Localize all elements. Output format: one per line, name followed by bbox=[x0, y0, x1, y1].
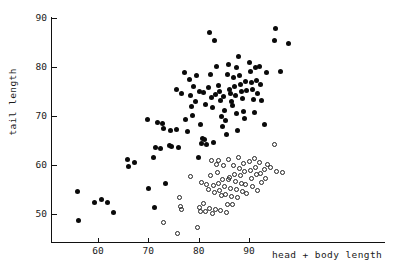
data-point-open bbox=[247, 159, 252, 164]
data-point-filled bbox=[221, 94, 226, 99]
data-point-filled bbox=[223, 118, 228, 123]
data-point-filled bbox=[189, 104, 194, 109]
data-point-filled bbox=[160, 121, 165, 126]
data-point-open bbox=[201, 201, 206, 206]
data-point-filled bbox=[203, 102, 208, 107]
data-point-open bbox=[231, 163, 236, 168]
data-point-filled bbox=[176, 145, 181, 150]
data-point-filled bbox=[248, 69, 253, 74]
data-point-open bbox=[248, 168, 253, 173]
data-point-filled bbox=[226, 62, 231, 67]
data-point-filled bbox=[247, 60, 252, 65]
data-point-filled bbox=[258, 82, 263, 87]
data-point-open bbox=[249, 176, 254, 181]
data-point-open bbox=[268, 165, 273, 170]
data-point-open bbox=[226, 177, 231, 182]
data-point-filled bbox=[174, 87, 179, 92]
data-point-filled bbox=[216, 83, 221, 88]
data-point-open bbox=[188, 174, 193, 179]
data-point-filled bbox=[190, 113, 195, 118]
data-point-filled bbox=[220, 124, 225, 129]
data-point-filled bbox=[250, 87, 255, 92]
data-point-filled bbox=[151, 155, 156, 160]
data-point-filled bbox=[230, 103, 235, 108]
data-point-filled bbox=[105, 200, 110, 205]
data-point-open bbox=[274, 169, 279, 174]
data-point-filled bbox=[92, 200, 97, 205]
data-point-open bbox=[179, 207, 184, 212]
data-point-filled bbox=[255, 91, 260, 96]
data-point-filled bbox=[168, 128, 173, 133]
plot-area bbox=[0, 0, 409, 271]
data-point-open bbox=[263, 176, 268, 181]
data-point-filled bbox=[237, 73, 242, 78]
scatter-plot-figure: 60708090 5060708090 head + body length t… bbox=[0, 0, 409, 271]
data-point-filled bbox=[204, 142, 209, 147]
data-point-filled bbox=[222, 108, 227, 113]
data-point-filled bbox=[241, 109, 246, 114]
data-point-open bbox=[250, 184, 255, 189]
data-point-filled bbox=[201, 90, 206, 95]
data-point-filled bbox=[232, 84, 237, 89]
data-point-filled bbox=[257, 64, 262, 69]
data-point-filled bbox=[231, 75, 236, 80]
data-point-filled bbox=[152, 205, 157, 210]
data-point-filled bbox=[187, 77, 192, 82]
data-point-open bbox=[218, 208, 223, 213]
data-point-open bbox=[255, 188, 260, 193]
data-point-filled bbox=[76, 218, 81, 223]
data-point-filled bbox=[202, 137, 207, 142]
data-point-open bbox=[236, 155, 241, 160]
data-point-filled bbox=[161, 126, 166, 131]
data-point-open bbox=[206, 187, 211, 192]
data-point-open bbox=[161, 220, 166, 225]
data-point-filled bbox=[251, 97, 256, 102]
data-point-open bbox=[221, 163, 226, 168]
data-point-filled bbox=[158, 146, 163, 151]
data-point-open bbox=[238, 173, 243, 178]
data-point-filled bbox=[235, 128, 240, 133]
data-point-filled bbox=[242, 116, 247, 121]
data-point-filled bbox=[194, 73, 199, 78]
data-point-open bbox=[216, 181, 221, 186]
data-point-open bbox=[229, 194, 234, 199]
data-point-filled bbox=[125, 157, 130, 162]
data-point-open bbox=[216, 158, 221, 163]
data-point-filled bbox=[233, 93, 238, 98]
data-point-open bbox=[209, 158, 214, 163]
data-point-open bbox=[226, 157, 231, 162]
data-point-open bbox=[253, 165, 258, 170]
data-point-filled bbox=[179, 91, 184, 96]
data-point-filled bbox=[273, 26, 278, 31]
data-point-filled bbox=[207, 30, 212, 35]
data-point-filled bbox=[259, 98, 264, 103]
data-point-filled bbox=[234, 65, 239, 70]
data-point-open bbox=[215, 170, 220, 175]
data-point-filled bbox=[163, 181, 168, 186]
data-point-open bbox=[280, 170, 285, 175]
data-point-filled bbox=[272, 38, 277, 43]
data-point-filled bbox=[75, 189, 80, 194]
data-point-open bbox=[224, 210, 229, 215]
data-point-filled bbox=[286, 41, 291, 46]
data-point-filled bbox=[174, 127, 179, 132]
data-point-open bbox=[262, 167, 267, 172]
data-point-open bbox=[241, 161, 246, 166]
data-point-open bbox=[258, 171, 263, 176]
data-point-open bbox=[233, 179, 238, 184]
data-point-open bbox=[235, 195, 240, 200]
data-point-open bbox=[272, 142, 277, 147]
data-point-filled bbox=[252, 110, 257, 115]
data-point-open bbox=[252, 156, 257, 161]
data-point-open bbox=[257, 160, 262, 165]
data-point-open bbox=[208, 173, 213, 178]
data-point-filled bbox=[169, 144, 174, 149]
data-point-open bbox=[242, 169, 247, 174]
data-point-open bbox=[228, 186, 233, 191]
data-point-filled bbox=[278, 69, 283, 74]
data-point-filled bbox=[236, 54, 241, 59]
data-point-filled bbox=[244, 88, 249, 93]
data-point-filled bbox=[243, 79, 248, 84]
data-point-filled bbox=[198, 122, 203, 127]
data-point-filled bbox=[188, 93, 193, 98]
